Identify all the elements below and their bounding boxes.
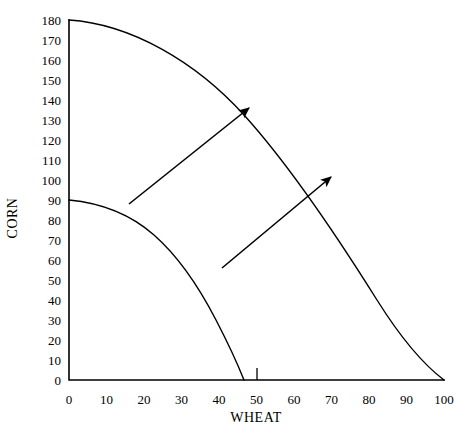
curves-group	[69, 20, 444, 380]
y-tick-label-110: 110	[42, 153, 61, 168]
y-tick-label-40: 40	[48, 293, 61, 308]
outer-ppf-curve	[69, 20, 444, 380]
x-tick-label-80: 80	[363, 392, 376, 407]
x-tick-label-50: 50	[250, 392, 263, 407]
x-tick-label-30: 30	[175, 392, 188, 407]
ppf-chart: 0102030405060708090100110120130140150160…	[0, 0, 473, 441]
y-tick-label-90: 90	[48, 193, 61, 208]
y-tick-label-0: 0	[55, 373, 62, 388]
y-tick-label-20: 20	[48, 333, 61, 348]
y-tick-label-50: 50	[48, 273, 61, 288]
axis-lines	[69, 20, 444, 380]
y-tick-label-100: 100	[42, 173, 62, 188]
x-tick-label-90: 90	[400, 392, 413, 407]
y-tick-label-170: 170	[42, 33, 62, 48]
x-axis-title: WHEAT	[230, 410, 282, 425]
x-axis-tick-labels: 0102030405060708090100	[66, 392, 454, 407]
x-tick-label-60: 60	[288, 392, 301, 407]
x-tick-label-70: 70	[325, 392, 338, 407]
upper-growth-arrow	[129, 108, 249, 204]
chart-canvas: 0102030405060708090100110120130140150160…	[0, 0, 473, 441]
y-tick-label-160: 160	[42, 53, 62, 68]
y-tick-label-60: 60	[48, 253, 61, 268]
y-tick-label-150: 150	[42, 73, 62, 88]
y-tick-label-30: 30	[48, 313, 61, 328]
y-tick-label-120: 120	[42, 133, 62, 148]
x-tick-label-10: 10	[100, 392, 113, 407]
y-tick-label-80: 80	[48, 213, 61, 228]
x-tick-label-20: 20	[138, 392, 151, 407]
y-tick-label-130: 130	[42, 113, 62, 128]
y-tick-label-140: 140	[42, 93, 62, 108]
lower-growth-arrow	[222, 177, 331, 268]
x-tick-label-0: 0	[66, 392, 73, 407]
y-tick-label-70: 70	[48, 233, 61, 248]
y-tick-label-180: 180	[42, 13, 62, 28]
y-axis-tick-labels: 0102030405060708090100110120130140150160…	[42, 13, 62, 388]
inner-ppf-curve	[69, 200, 244, 380]
y-tick-label-10: 10	[48, 353, 61, 368]
x-tick-label-40: 40	[213, 392, 226, 407]
x-tick-label-100: 100	[434, 392, 454, 407]
y-axis-title: CORN	[5, 198, 20, 239]
axes-group	[69, 20, 444, 380]
annotations-group	[129, 108, 331, 268]
